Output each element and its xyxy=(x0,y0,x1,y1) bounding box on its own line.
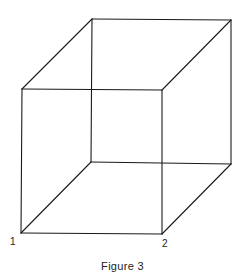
front-bottom-edge xyxy=(21,233,162,234)
necker-cube-diagram xyxy=(0,0,245,278)
connector-bottom-right xyxy=(162,164,231,234)
vertex-label-1: 1 xyxy=(10,237,16,247)
front-left-edge xyxy=(21,89,22,233)
back-bottom-edge xyxy=(91,162,231,164)
back-top-edge xyxy=(92,19,231,20)
connector-top-left xyxy=(22,19,92,89)
vertex-label-2: 2 xyxy=(162,239,168,249)
connector-bottom-left xyxy=(21,162,91,233)
figure-caption: Figure 3 xyxy=(0,260,245,272)
back-left-edge xyxy=(91,19,92,162)
connector-top-right xyxy=(162,20,231,90)
